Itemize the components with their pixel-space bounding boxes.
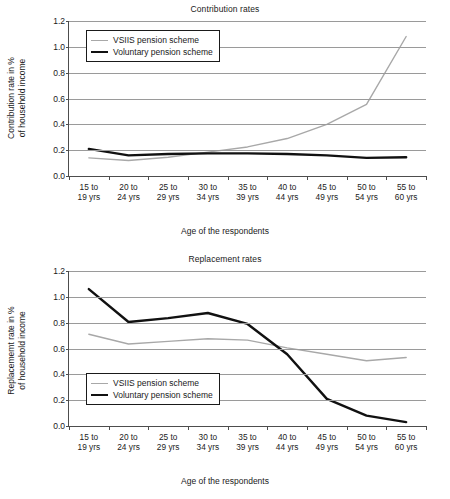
x-tick-label: 20 to24 yrs — [117, 182, 140, 202]
x-tick-label-line2: 44 yrs — [276, 442, 299, 452]
y-tick-label: 0.6 — [53, 94, 65, 104]
y-axis-label-line2: of household income — [17, 268, 28, 433]
x-tick-label-line1: 35 to — [236, 432, 259, 442]
x-tick-label: 40 to44 yrs — [276, 182, 299, 202]
gridline — [69, 124, 426, 125]
legend-swatch-voluntary-icon — [91, 51, 108, 53]
x-tick-label: 55 to60 yrs — [395, 432, 418, 452]
x-tick-mark — [228, 176, 229, 180]
x-tick-label: 35 to39 yrs — [236, 432, 259, 452]
x-tick-label-line2: 24 yrs — [117, 442, 140, 452]
chart-legend: VSIIS pension scheme Voluntary pension s… — [86, 30, 220, 62]
y-tick-mark — [66, 47, 69, 48]
y-tick-label: 0.4 — [53, 369, 65, 379]
y-axis-label-line2: of household income — [17, 18, 28, 178]
x-tick-label-line1: 35 to — [236, 182, 259, 192]
gridline — [69, 21, 426, 22]
x-tick-mark — [267, 176, 268, 180]
x-tick-mark — [109, 176, 110, 180]
x-tick-label-line2: 49 yrs — [316, 442, 339, 452]
legend-swatch-vsiis-icon — [91, 40, 108, 41]
y-tick-label: 1.0 — [53, 292, 65, 302]
legend-label-vsiis: VSIIS pension scheme — [113, 35, 199, 45]
figure-root: Contribution rates Contribution rate in … — [0, 0, 450, 499]
y-tick-label: 1.2 — [53, 266, 65, 276]
x-tick-label-line2: 54 yrs — [355, 192, 378, 202]
x-tick-label: 55 to60 yrs — [395, 182, 418, 202]
x-axis-label: Age of the respondents — [0, 226, 450, 236]
x-tick-label-line2: 54 yrs — [355, 442, 378, 452]
x-tick-label-line2: 49 yrs — [316, 192, 339, 202]
x-tick-label: 15 to19 yrs — [78, 182, 101, 202]
x-tick-label-line2: 24 yrs — [117, 192, 140, 202]
x-tick-label-line1: 25 to — [157, 182, 180, 192]
y-tick-label: 0.2 — [53, 395, 65, 405]
x-tick-label-line1: 45 to — [316, 182, 339, 192]
gridline — [69, 297, 426, 298]
x-tick-label-line1: 45 to — [316, 432, 339, 442]
y-tick-mark — [66, 374, 69, 375]
y-tick-label: 1.2 — [53, 16, 65, 26]
x-tick-label-line1: 20 to — [117, 182, 140, 192]
x-tick-label-line1: 50 to — [355, 182, 378, 192]
x-tick-mark — [347, 176, 348, 180]
x-tick-mark — [426, 426, 427, 430]
y-tick-mark — [66, 400, 69, 401]
x-tick-mark — [109, 426, 110, 430]
gridline — [69, 271, 426, 272]
legend-swatch-vsiis-icon — [91, 383, 108, 384]
x-tick-label-line1: 55 to — [395, 182, 418, 192]
chart-legend: VSIIS pension scheme Voluntary pension s… — [86, 373, 220, 405]
legend-item-voluntary: Voluntary pension scheme — [91, 46, 213, 58]
y-tick-label: 0.8 — [53, 68, 65, 78]
y-tick-label: 0.8 — [53, 318, 65, 328]
x-tick-label-line2: 29 yrs — [157, 442, 180, 452]
chart-contribution-rates: Contribution rates Contribution rate in … — [0, 0, 450, 250]
y-tick-mark — [66, 150, 69, 151]
x-tick-mark — [69, 426, 70, 430]
x-tick-mark — [188, 176, 189, 180]
gridline — [69, 73, 426, 74]
x-tick-label: 25 to29 yrs — [157, 432, 180, 452]
x-tick-label: 50 to54 yrs — [355, 432, 378, 452]
x-tick-label-line2: 60 yrs — [395, 192, 418, 202]
x-tick-mark — [188, 426, 189, 430]
x-tick-mark — [307, 426, 308, 430]
y-tick-mark — [66, 297, 69, 298]
chart-replacement-rates: Replacement rates Replacememt rate in % … — [0, 250, 450, 490]
x-tick-label: 45 to49 yrs — [316, 182, 339, 202]
x-tick-label: 40 to44 yrs — [276, 432, 299, 452]
x-tick-label: 35 to39 yrs — [236, 182, 259, 202]
x-tick-mark — [426, 176, 427, 180]
y-tick-mark — [66, 271, 69, 272]
x-tick-label: 25 to29 yrs — [157, 182, 180, 202]
x-tick-label-line2: 29 yrs — [157, 192, 180, 202]
x-tick-label-line1: 30 to — [197, 432, 220, 442]
legend-swatch-voluntary-icon — [91, 394, 108, 396]
legend-label-voluntary: Voluntary pension scheme — [113, 390, 213, 400]
x-tick-label-line2: 34 yrs — [197, 442, 220, 452]
x-tick-label-line1: 50 to — [355, 432, 378, 442]
y-tick-label: 0.0 — [53, 421, 65, 431]
x-tick-label-line2: 19 yrs — [78, 442, 101, 452]
legend-item-vsiis: VSIIS pension scheme — [91, 34, 213, 46]
x-tick-mark — [386, 176, 387, 180]
x-tick-mark — [347, 426, 348, 430]
chart-title: Replacement rates — [0, 254, 450, 264]
gridline — [69, 323, 426, 324]
x-tick-label-line1: 15 to — [78, 432, 101, 442]
y-axis-label-line1: Contribution rate in % — [6, 18, 17, 178]
x-tick-mark — [69, 176, 70, 180]
legend-item-voluntary: Voluntary pension scheme — [91, 389, 213, 401]
legend-label-vsiis: VSIIS pension scheme — [113, 378, 199, 388]
y-tick-label: 0.0 — [53, 171, 65, 181]
legend-item-vsiis: VSIIS pension scheme — [91, 377, 213, 389]
x-tick-label: 30 to34 yrs — [197, 432, 220, 452]
x-tick-mark — [148, 176, 149, 180]
x-tick-label-line1: 15 to — [78, 182, 101, 192]
y-tick-mark — [66, 73, 69, 74]
x-tick-label-line2: 60 yrs — [395, 442, 418, 452]
y-tick-mark — [66, 323, 69, 324]
x-tick-label-line1: 30 to — [197, 182, 220, 192]
x-tick-label-line2: 34 yrs — [197, 192, 220, 202]
